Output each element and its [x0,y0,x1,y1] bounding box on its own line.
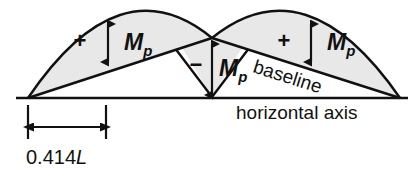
center-moment-subscript: p [237,68,247,85]
horizontal-axis-label: horizontal axis [236,102,357,123]
left-moment-subscript: p [142,42,152,59]
bending-moment-diagram-canvas: + Mp − Mp + Mp baseline horizontal axis [0,0,416,171]
right-moment-label: Mp [327,29,355,59]
right-positive-sign: + [278,28,291,53]
left-positive-sign: + [74,28,87,53]
moment-diagram-figure: + Mp − Mp + Mp baseline horizontal axis [0,0,416,171]
center-moment-symbol: M [219,55,239,81]
left-positive-moment-area [28,11,212,98]
dimension-length-symbol: L [76,146,87,168]
dimension-value: 0.414 [26,146,76,168]
dimension-0414L [28,105,106,139]
center-negative-sign: − [190,52,203,77]
dimension-label: 0.414L [26,146,87,168]
center-moment-label: Mp [219,55,247,85]
right-moment-subscript: p [345,42,355,59]
right-moment-symbol: M [327,29,347,55]
left-moment-symbol: M [124,29,144,55]
